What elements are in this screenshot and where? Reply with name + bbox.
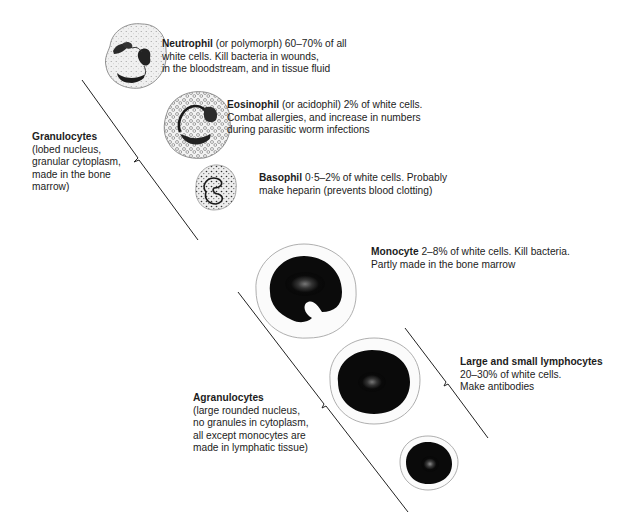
- monocyte-cell-icon: [256, 244, 356, 338]
- cell-name: Basophil: [259, 172, 302, 183]
- group-name: Granulocytes: [32, 131, 97, 142]
- cell-name: Neutrophil: [162, 38, 213, 49]
- eosinophil-label: Eosinophil (or acidophil) 2% of white ce…: [227, 99, 497, 137]
- granulocytes-group-label: Granulocytes (lobed nucleus, granular cy…: [32, 131, 152, 194]
- neutrophil-cell-icon: [105, 24, 166, 89]
- cell-name: Large and small lymphocytes: [460, 356, 603, 367]
- neutrophil-label: Neutrophil (or polymorph) 60–70% of all …: [162, 38, 402, 76]
- small-lymphocyte-cell-icon: [400, 436, 458, 490]
- monocyte-label: Monocyte 2–8% of white cells. Kill bacte…: [371, 246, 601, 271]
- lymphocytes-label: Large and small lymphocytes 20–30% of wh…: [460, 356, 638, 394]
- basophil-cell-icon: [196, 165, 237, 210]
- agranulocytes-group-label: Agranulocytes (large rounded nucleus, no…: [193, 392, 363, 455]
- cell-name: Monocyte: [371, 246, 419, 257]
- basophil-label: Basophil 0·5–2% of white cells. Probably…: [259, 172, 509, 197]
- cell-name: Eosinophil: [227, 99, 279, 110]
- eosinophil-cell-icon: [164, 92, 230, 159]
- group-name: Agranulocytes: [193, 392, 264, 403]
